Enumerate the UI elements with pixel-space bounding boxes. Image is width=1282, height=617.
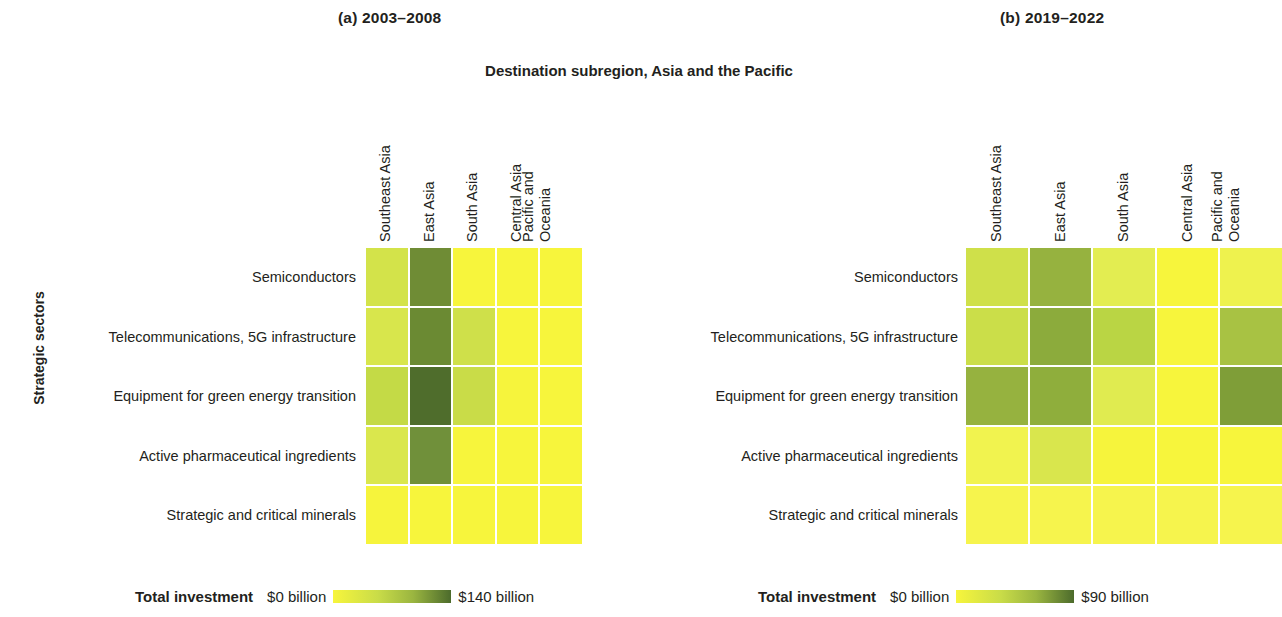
heatmap-cell bbox=[540, 486, 582, 544]
heatmap-cell bbox=[1220, 308, 1282, 366]
row-label: Strategic and critical minerals bbox=[167, 486, 356, 545]
heatmap-cell bbox=[1220, 367, 1282, 425]
heatmap-cell bbox=[1220, 427, 1282, 485]
row-label: Telecommunications, 5G infrastructure bbox=[711, 308, 958, 367]
column-label: Central Asia bbox=[1179, 164, 1195, 242]
heatmap-cell bbox=[497, 367, 539, 425]
column-label: East Asia bbox=[1052, 182, 1068, 242]
panel-a-legend-colorbar bbox=[333, 590, 451, 603]
heatmap-cell bbox=[453, 248, 495, 306]
panel-a-legend-title: Total investment bbox=[135, 588, 253, 605]
heatmap-cell bbox=[1093, 367, 1155, 425]
heatmap-cell bbox=[1220, 248, 1282, 306]
row-label: Semiconductors bbox=[854, 248, 958, 307]
panel-a-legend-min-label: $0 billion bbox=[267, 588, 326, 605]
panel-b-heatmap-grid bbox=[966, 248, 1282, 544]
panel-b-legend-colorbar bbox=[956, 590, 1074, 603]
heatmap-cell bbox=[453, 486, 495, 544]
heatmap-cell bbox=[410, 367, 452, 425]
heatmap-cell bbox=[1220, 486, 1282, 544]
heatmap-cell bbox=[1093, 248, 1155, 306]
heatmap-cell bbox=[366, 486, 408, 544]
row-label: Telecommunications, 5G infrastructure bbox=[109, 308, 356, 367]
panel-b-legend-title: Total investment bbox=[758, 588, 876, 605]
panel-b-legend-max-label: $90 billion bbox=[1081, 588, 1149, 605]
heatmap-cell bbox=[966, 427, 1028, 485]
heatmap-cell bbox=[453, 427, 495, 485]
column-label: East Asia bbox=[421, 182, 437, 242]
panel-a-column-labels: Southeast AsiaEast AsiaSouth AsiaCentral… bbox=[366, 104, 581, 244]
panel-a-heatmap-grid bbox=[366, 248, 582, 544]
panel-a-row-labels: SemiconductorsTelecommunications, 5G inf… bbox=[42, 248, 364, 543]
heatmap-cell bbox=[1093, 486, 1155, 544]
heatmap-cell bbox=[497, 248, 539, 306]
heatmap-cell bbox=[1157, 308, 1219, 366]
heatmap-cell bbox=[1093, 427, 1155, 485]
heatmap-cell bbox=[410, 427, 452, 485]
heatmap-cell bbox=[497, 427, 539, 485]
panel-b-title: (b) 2019–2022 bbox=[1000, 9, 1104, 27]
heatmap-cell bbox=[1157, 486, 1219, 544]
heatmap-cell bbox=[410, 308, 452, 366]
heatmap-cell bbox=[410, 248, 452, 306]
destination-axis-title: Destination subregion, Asia and the Paci… bbox=[0, 62, 1278, 79]
heatmap-cell bbox=[540, 367, 582, 425]
row-label: Active pharmaceutical ingredients bbox=[741, 427, 958, 486]
heatmap-cell bbox=[966, 248, 1028, 306]
heatmap-cell bbox=[1030, 248, 1092, 306]
panel-b-row-labels: SemiconductorsTelecommunications, 5G inf… bbox=[644, 248, 966, 543]
heatmap-cell bbox=[966, 486, 1028, 544]
heatmap-cell bbox=[410, 486, 452, 544]
heatmap-cell bbox=[453, 367, 495, 425]
heatmap-cell bbox=[366, 427, 408, 485]
heatmap-cell bbox=[1030, 486, 1092, 544]
heatmap-cell bbox=[453, 308, 495, 366]
panel-b-legend-min-label: $0 billion bbox=[890, 588, 949, 605]
row-label: Equipment for green energy transition bbox=[715, 367, 958, 426]
panel-a-legend: Total investment $0 billion $140 billion bbox=[135, 588, 534, 605]
row-label: Active pharmaceutical ingredients bbox=[139, 427, 356, 486]
column-label: Southeast Asia bbox=[988, 145, 1004, 242]
heatmap-cell bbox=[366, 367, 408, 425]
column-label: South Asia bbox=[464, 173, 480, 242]
panel-b-column-labels: Southeast AsiaEast AsiaSouth AsiaCentral… bbox=[966, 104, 1279, 244]
heatmap-cell bbox=[1157, 248, 1219, 306]
column-label: Pacific andOceania bbox=[1209, 171, 1242, 242]
panel-a-legend-max-label: $140 billion bbox=[458, 588, 534, 605]
heatmap-cell bbox=[966, 308, 1028, 366]
heatmap-cell bbox=[540, 248, 582, 306]
row-label: Equipment for green energy transition bbox=[113, 367, 356, 426]
column-label: South Asia bbox=[1115, 173, 1131, 242]
panel-b-legend: Total investment $0 billion $90 billion bbox=[758, 588, 1149, 605]
heatmap-cell bbox=[540, 427, 582, 485]
heatmap-cell bbox=[1093, 308, 1155, 366]
heatmap-cell bbox=[1030, 427, 1092, 485]
column-label: Pacific andOceania bbox=[520, 171, 553, 242]
heatmap-cell bbox=[497, 486, 539, 544]
heatmap-cell bbox=[366, 248, 408, 306]
column-label: Southeast Asia bbox=[377, 145, 393, 242]
row-label: Strategic and critical minerals bbox=[769, 486, 958, 545]
row-label: Semiconductors bbox=[252, 248, 356, 307]
panel-a-title: (a) 2003–2008 bbox=[338, 9, 441, 27]
heatmap-cell bbox=[497, 308, 539, 366]
heatmap-cell bbox=[966, 367, 1028, 425]
heatmap-cell bbox=[1157, 367, 1219, 425]
heatmap-cell bbox=[366, 308, 408, 366]
heatmap-cell bbox=[540, 308, 582, 366]
heatmap-cell bbox=[1157, 427, 1219, 485]
heatmap-cell bbox=[1030, 308, 1092, 366]
heatmap-cell bbox=[1030, 367, 1092, 425]
